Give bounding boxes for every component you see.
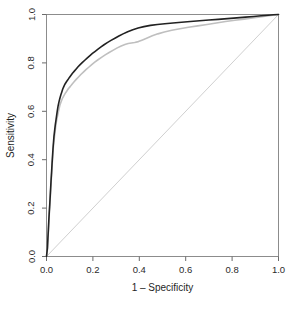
x-tick-label-5: 1.0	[272, 264, 285, 275]
y-tick-label-0: 0.0	[26, 250, 37, 263]
x-tick-label-3: 0.6	[179, 264, 192, 275]
x-tick-label-4: 0.8	[225, 264, 238, 275]
chance-diagonal	[47, 15, 279, 257]
x-axis-title: 1 – Specificity	[132, 282, 194, 293]
y-tick-label-3: 0.6	[26, 105, 37, 118]
x-tick-label-1: 0.2	[86, 264, 99, 275]
y-tick-label-1: 0.2	[26, 201, 37, 214]
roc-plot-svg: 0.00.20.40.60.81.00.00.20.40.60.81.01 – …	[0, 0, 302, 315]
x-tick-label-2: 0.4	[133, 264, 146, 275]
y-tick-label-4: 0.8	[26, 56, 37, 69]
x-tick-label-0: 0.0	[40, 264, 53, 275]
y-tick-label-5: 1.0	[26, 8, 37, 21]
roc-chart: 0.00.20.40.60.81.00.00.20.40.60.81.01 – …	[0, 0, 302, 315]
y-tick-label-2: 0.4	[26, 153, 37, 166]
y-axis-title: Sensitivity	[5, 113, 16, 158]
